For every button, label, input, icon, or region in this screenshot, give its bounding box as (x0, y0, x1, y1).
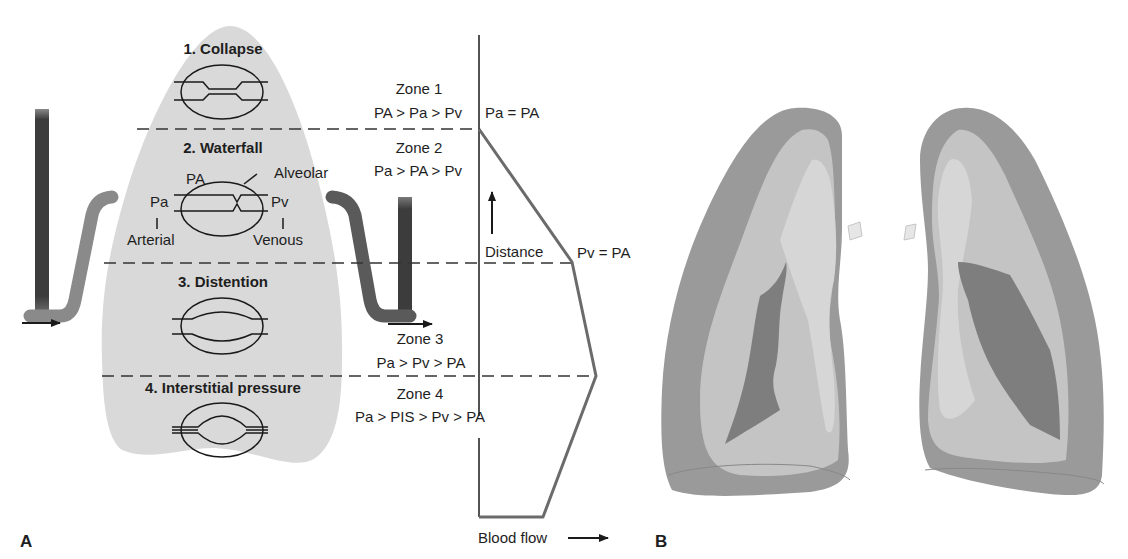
zone-3-name: Zone 3 (397, 330, 444, 348)
arterial-tube (30, 109, 112, 317)
region-title-waterfall: 2. Waterfall (183, 139, 262, 157)
blood-flow-curve (479, 129, 596, 517)
zone-1-relation: PA > Pa > Pv (374, 104, 462, 122)
zone-4-name: Zone 4 (397, 385, 444, 403)
zone-3-relation: Pa > Pv > PA (377, 354, 466, 372)
marker-pa-equals-PA: Pa = PA (485, 104, 539, 122)
venous-tube (332, 197, 412, 317)
label-alveolar: Alveolar (274, 164, 328, 182)
marker-pv-equals-PA: Pv = PA (577, 244, 631, 262)
label-pa: Pa (150, 193, 168, 211)
region-title-distention: 3. Distention (178, 273, 268, 291)
right-lung-illustration (919, 108, 1104, 495)
right-bronchus-stub (904, 224, 916, 240)
left-bronchus-stub (848, 222, 862, 240)
y-axis-label-distance: Distance (485, 243, 543, 261)
region-title-collapse: 1. Collapse (183, 40, 262, 58)
zone-1-name: Zone 1 (396, 80, 443, 98)
label-PA: PA (186, 170, 205, 188)
zone-4-relation: Pa > PIS > Pv > PA (355, 408, 485, 426)
left-lung-illustration (661, 108, 850, 496)
zones-diagram-artwork (0, 0, 1128, 559)
panel-label-b: B (655, 533, 667, 551)
label-arterial: Arterial (127, 231, 175, 249)
zone-2-relation: Pa > PA > Pv (374, 162, 462, 180)
label-venous: Venous (253, 231, 303, 249)
label-pv: Pv (271, 193, 289, 211)
zone-2-name: Zone 2 (396, 139, 443, 157)
x-axis-label-blood-flow: Blood flow (478, 529, 547, 547)
panel-label-a: A (20, 533, 32, 551)
region-title-interstitial: 4. Interstitial pressure (145, 379, 301, 397)
